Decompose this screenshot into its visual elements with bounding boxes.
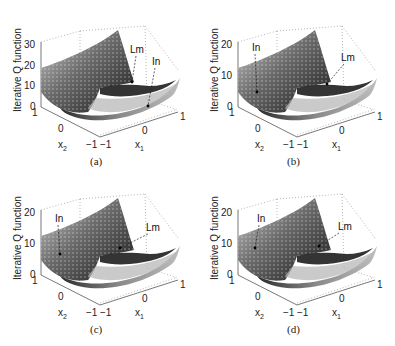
x2-tick-label: 0 bbox=[58, 124, 64, 134]
x1-tick-label: 1 bbox=[377, 280, 383, 290]
x1-tick-label: 0 bbox=[339, 294, 345, 304]
x1-tick-label: 0 bbox=[339, 126, 345, 136]
x2-tick-label: 1 bbox=[229, 276, 235, 286]
panel-caption: (b) bbox=[287, 155, 300, 167]
plot-annotation: In bbox=[257, 213, 265, 224]
plot-annotation: In bbox=[55, 213, 63, 224]
x1-axis-label: x1 bbox=[135, 308, 144, 322]
x1-tick-label: −1 bbox=[297, 140, 308, 150]
x1-axis-label: x1 bbox=[135, 140, 144, 154]
z-tick-label: 10 bbox=[221, 71, 232, 81]
plot-annotation: Lm bbox=[130, 44, 144, 55]
x1-axis-label: x1 bbox=[332, 140, 341, 154]
x1-tick-label: 1 bbox=[180, 112, 186, 122]
x2-axis-label: x2 bbox=[255, 140, 264, 154]
surface-plot bbox=[197, 168, 394, 341]
panel-caption: (c) bbox=[90, 323, 102, 335]
x2-tick-label: 0 bbox=[255, 124, 261, 134]
x2-tick-label: −1 bbox=[283, 140, 294, 150]
plot-annotation: Lm bbox=[341, 52, 355, 63]
chart-panel-a: Iterative Q function x2 x1 Lm In (a) 010… bbox=[0, 0, 197, 173]
x2-axis-label: x2 bbox=[58, 140, 67, 154]
z-tick-label: 10 bbox=[221, 239, 232, 249]
chart-panel-b: Iterative Q function x2 x1 In Lm (b) 010… bbox=[197, 0, 394, 173]
x1-tick-label: −1 bbox=[100, 140, 111, 150]
x1-axis-label: x1 bbox=[332, 308, 341, 322]
surface-plot bbox=[0, 168, 197, 341]
z-axis-label: Iterative Q function bbox=[209, 196, 220, 280]
x2-axis-label: x2 bbox=[255, 308, 264, 322]
z-tick-label: 30 bbox=[24, 40, 35, 50]
x1-tick-label: 1 bbox=[180, 280, 186, 290]
z-tick-label: 10 bbox=[24, 239, 35, 249]
panel-caption: (a) bbox=[90, 155, 102, 167]
x2-axis-label: x2 bbox=[58, 308, 67, 322]
plot-annotation: In bbox=[152, 56, 160, 67]
z-tick-label: 20 bbox=[24, 61, 35, 71]
z-tick-label: 20 bbox=[221, 208, 232, 218]
x2-tick-label: 1 bbox=[32, 276, 38, 286]
x2-tick-label: 1 bbox=[229, 108, 235, 118]
x2-tick-label: 0 bbox=[58, 292, 64, 302]
chart-panel-c: Iterative Q function x2 x1 In Lm (c) 010… bbox=[0, 168, 197, 341]
plot-annotation: In bbox=[252, 42, 260, 53]
x2-tick-label: 0 bbox=[255, 292, 261, 302]
panel-caption: (d) bbox=[287, 323, 300, 335]
x1-tick-label: 1 bbox=[377, 112, 383, 122]
z-tick-label: 20 bbox=[24, 208, 35, 218]
x2-tick-label: −1 bbox=[86, 140, 97, 150]
z-axis-label: Iterative Q function bbox=[12, 28, 23, 112]
x2-tick-label: 1 bbox=[32, 108, 38, 118]
plot-annotation: Lm bbox=[338, 221, 352, 232]
x2-tick-label: −1 bbox=[283, 308, 294, 318]
z-tick-label: 20 bbox=[221, 40, 232, 50]
chart-panel-d: Iterative Q function x2 x1 In Lm (d) 010… bbox=[197, 168, 394, 341]
x1-tick-label: −1 bbox=[100, 308, 111, 318]
x1-tick-label: 0 bbox=[142, 126, 148, 136]
x2-tick-label: −1 bbox=[86, 308, 97, 318]
z-axis-label: Iterative Q function bbox=[209, 28, 220, 112]
z-axis-label: Iterative Q function bbox=[12, 196, 23, 280]
x1-tick-label: −1 bbox=[297, 308, 308, 318]
z-tick-label: 10 bbox=[24, 81, 35, 91]
surface-plot bbox=[197, 0, 394, 173]
plot-annotation: Lm bbox=[146, 222, 160, 233]
x1-tick-label: 0 bbox=[142, 294, 148, 304]
